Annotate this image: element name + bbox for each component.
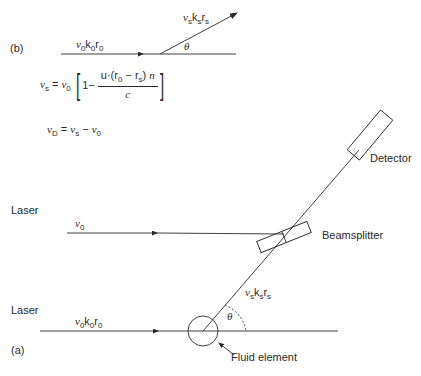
subscript: s [75,129,79,138]
scattered-vector-label: νsksrs [183,12,209,26]
diagram-canvas [0,0,421,376]
reference-beam-label: ν0 [75,218,84,232]
subscript: 0 [99,44,103,53]
panel-b-label: (b) [10,43,23,54]
numerator-text: − r [122,69,138,81]
subscript: 0 [80,223,84,232]
equation-doppler-difference: νD = νs − ν0 [47,124,101,138]
equals-sign: = [52,78,58,90]
denominator: c [98,87,158,100]
subscript: 0 [97,129,101,138]
fluid-element-label: Fluid element [231,352,297,363]
left-bracket: [ [76,70,80,100]
subscript: s [45,84,49,93]
subscript: 0 [98,321,102,330]
panel-a-angle: θ [227,311,232,322]
right-bracket: ] [160,70,164,100]
incident-vector-label: ν0k0r0 [76,39,103,53]
refractive-index: n [149,69,155,81]
one-minus: 1− [82,79,95,91]
subscript: 0 [66,84,70,93]
equals-sign: = [61,123,67,135]
detector-label: Detector [370,153,412,164]
fraction: u·(r0 − rs) n c [98,70,158,100]
laser-label-bottom: Laser [11,305,39,316]
numerator-text: u·(r [101,69,118,81]
subscript: s [205,17,209,26]
minus-sign: − [82,123,88,135]
panel-b-angle: θ [184,41,189,52]
numerator: u·(r0 − rs) n [98,70,158,87]
laser-label-top: Laser [11,205,39,216]
panel-a-label: (a) [11,345,24,356]
subscript: D [52,129,58,138]
subscript: s [267,292,271,301]
beamsplitter-label: Beamsplitter [322,230,383,241]
reference-beam [157,233,284,234]
beamsplitter-shape [257,221,312,252]
scattered-ray-label: νsksrs [245,287,271,301]
illumination-beam-label: ν0k0r0 [75,316,102,330]
equation-doppler-shift: νs = ν0 [1− u·(r0 − rs) n c ] [40,70,166,100]
